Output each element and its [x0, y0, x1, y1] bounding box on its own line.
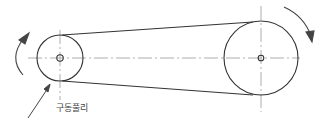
centerlines	[28, 6, 300, 112]
rotation-arrow-left-icon	[16, 33, 29, 75]
belt-drive-diagram	[0, 0, 322, 127]
leader-arrow-icon	[28, 84, 50, 118]
driving-pulley-label: 구동풀리	[56, 101, 88, 114]
rotation-arrow-right-icon	[284, 7, 314, 42]
